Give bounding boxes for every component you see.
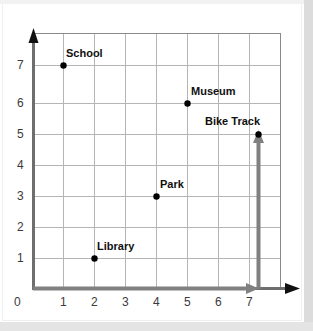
point-label-museum: Museum (191, 86, 236, 97)
x-tick-0: 0 (14, 296, 21, 308)
grid-lines (33, 34, 281, 290)
data-point-school[interactable] (60, 62, 66, 68)
point-label-library: Library (97, 241, 134, 252)
y-axis-arrowhead (29, 28, 39, 43)
y-path-highlight-arrow (253, 130, 264, 289)
plot-canvas (0, 0, 313, 331)
x-tick-5: 5 (184, 296, 191, 308)
x-tick-3: 3 (122, 296, 129, 308)
y-tick-1: 1 (17, 252, 24, 264)
scatter-plot: School Museum Bike Track Park Library 0 … (0, 0, 313, 331)
x-tick-4: 4 (153, 296, 160, 308)
point-label-school: School (66, 48, 103, 59)
y-tick-2: 2 (17, 221, 24, 233)
y-tick-6: 6 (17, 97, 24, 109)
data-point-library[interactable] (91, 255, 97, 261)
x-tick-6: 6 (215, 296, 222, 308)
coordinate-grid-page: School Museum Bike Track Park Library 0 … (0, 0, 313, 331)
x-axis-highlight-arrow (33, 283, 259, 294)
y-tick-4: 4 (17, 159, 24, 171)
data-point-museum[interactable] (184, 100, 190, 106)
point-label-bike-track: Bike Track (205, 116, 260, 127)
x-tick-1: 1 (60, 296, 67, 308)
y-tick-7: 7 (17, 59, 24, 71)
y-tick-5: 5 (17, 128, 24, 140)
data-point-bike-track[interactable] (255, 131, 261, 137)
x-axis-arrowhead (285, 283, 300, 294)
data-point-park[interactable] (153, 193, 159, 199)
point-label-park: Park (160, 179, 184, 190)
x-tick-2: 2 (91, 296, 98, 308)
x-tick-7: 7 (246, 296, 253, 308)
y-tick-3: 3 (17, 190, 24, 202)
